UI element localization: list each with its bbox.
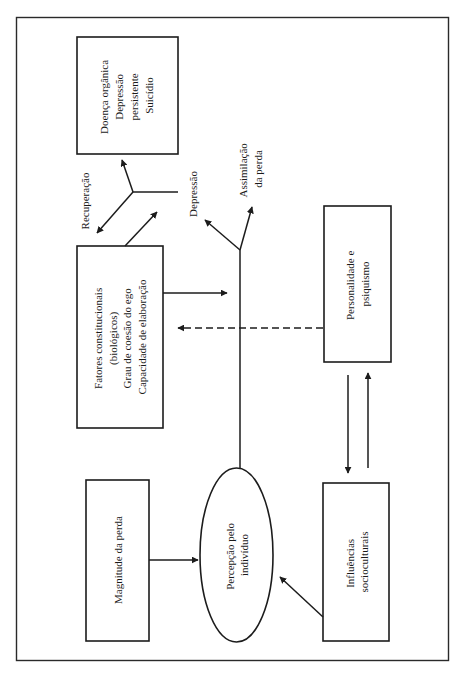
depressao-text: Depressão xyxy=(187,171,199,217)
percepcao-ellipse xyxy=(200,468,273,642)
node-doenca-organica: Doença orgânica Depressão persistente Su… xyxy=(77,37,178,154)
doenca-line-3: persistente xyxy=(128,73,140,120)
fatores-box xyxy=(77,246,163,428)
recuperacao-text: Recuperação xyxy=(79,172,91,229)
edge-trunk-to-assimilacao xyxy=(240,207,252,250)
grief-process-diagram: Doença orgânica Depressão persistente Su… xyxy=(0,0,463,675)
magnitude-line-1: Magnitude da perda xyxy=(112,516,124,604)
doenca-line-4: Suicídio xyxy=(143,77,155,114)
doenca-line-2: Depressão xyxy=(113,73,125,119)
assimilacao-label: Assimilação da perda xyxy=(237,140,264,197)
edge-influencias-to-percepcao xyxy=(280,577,323,617)
personalidade-line-1: Personalidade e xyxy=(344,251,356,320)
edge-depressao-to-recuperacao xyxy=(97,192,133,233)
percepcao-line-1: Percepção pelo xyxy=(224,522,236,589)
fatores-line-4: Capacidade de elaboração xyxy=(136,279,148,394)
depressao-label: Depressão xyxy=(187,171,199,217)
doenca-line-1: Doença orgânica xyxy=(98,60,110,134)
influencias-line-2: socioculturais xyxy=(358,531,370,592)
influencias-box xyxy=(323,483,389,641)
fatores-line-3: Grau de coesão do ego xyxy=(121,288,133,389)
personalidade-box xyxy=(324,206,391,362)
node-fatores-constitucionais: Fatores constitucionais (biológicos) Gra… xyxy=(77,246,163,428)
edge-trunk-to-depressao xyxy=(205,220,240,250)
node-influencias: Influências socioculturais xyxy=(323,483,389,641)
node-personalidade: Personalidade e psiquismo xyxy=(324,206,391,362)
assimilacao-line-2: da perda xyxy=(252,150,264,188)
influencias-line-1: Influências xyxy=(344,539,356,588)
recuperacao-label: Recuperação xyxy=(79,172,91,229)
fatores-line-2: (biológicos) xyxy=(107,311,120,364)
assimilacao-line-1: Assimilação xyxy=(237,143,249,198)
edge-depressao-to-doenca xyxy=(122,160,133,192)
magnitude-label: Magnitude da perda xyxy=(112,516,124,604)
node-magnitude: Magnitude da perda xyxy=(86,480,149,641)
percepcao-line-2: indivíduo xyxy=(238,533,250,576)
edge-fatores-to-depressao xyxy=(125,212,157,246)
fatores-line-1: Fatores constitucionais xyxy=(92,288,104,389)
personalidade-line-2: psiquismo xyxy=(359,261,371,307)
node-percepcao: Percepção pelo indivíduo xyxy=(200,468,273,642)
